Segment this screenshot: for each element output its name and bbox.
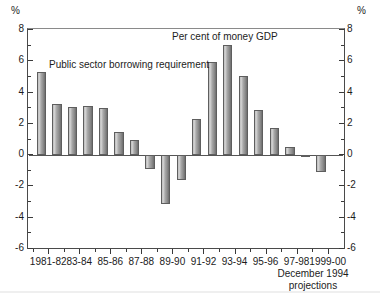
y-minortick-right--1 — [341, 170, 344, 171]
y-label-right--4: -4 — [347, 212, 356, 222]
y-minortick-right--3 — [341, 201, 344, 202]
bar-1985-86 — [114, 132, 123, 155]
y-minortick-left--3 — [28, 201, 31, 202]
y-label-left--6: -6 — [15, 243, 24, 253]
bar-1991-92 — [208, 62, 217, 155]
x-tick-9 — [172, 249, 173, 254]
x-label-95-96: 95-96 — [253, 256, 279, 267]
bar-1983-84 — [83, 106, 92, 155]
x-tick-0 — [33, 249, 34, 252]
bar-1996-97 — [285, 147, 294, 156]
y-label-left--4: -4 — [15, 212, 24, 222]
x-tick-14 — [250, 249, 251, 252]
y-minortick-left-5 — [28, 76, 31, 77]
bar-1989-90 — [177, 155, 186, 180]
y-tick-right--6 — [339, 248, 344, 249]
y-label-right--6: -6 — [347, 243, 356, 253]
y-label-left-0: 0 — [18, 149, 24, 159]
x-label-91-92: 91-92 — [191, 256, 217, 267]
y-label-left-8: 8 — [18, 24, 24, 34]
x-tick-3 — [79, 249, 80, 254]
y-minortick-right--5 — [341, 232, 344, 233]
bar-1997-98 — [301, 155, 310, 157]
projection-note-line1: December 1994 — [258, 268, 368, 280]
y-label-right-8: 8 — [347, 24, 353, 34]
y-axis-unit-left: % — [11, 6, 20, 16]
x-label-83-84: 83-84 — [66, 256, 92, 267]
x-label-1999-00: 1999-00 — [309, 256, 346, 267]
y-tick-left-2 — [28, 123, 33, 124]
y-tick-right--4 — [339, 217, 344, 218]
x-label-87-88: 87-88 — [129, 256, 155, 267]
x-tick-11 — [203, 249, 204, 254]
y-tick-right-8 — [339, 29, 344, 30]
x-tick-7 — [141, 249, 142, 254]
x-tick-2 — [64, 249, 65, 252]
x-tick-4 — [95, 249, 96, 252]
bar-1994-95 — [254, 110, 263, 155]
bar-1998-99 — [316, 155, 325, 172]
bar-1984-85 — [99, 108, 108, 155]
y-tick-right-6 — [339, 60, 344, 61]
x-tick-13 — [235, 249, 236, 254]
x-tick-17 — [297, 249, 298, 254]
x-tick-16 — [281, 249, 282, 252]
y-tick-left-8 — [28, 29, 33, 30]
y-tick-left-4 — [28, 92, 33, 93]
y-tick-right-0 — [339, 154, 344, 155]
y-minortick-left-7 — [28, 45, 31, 46]
projection-note: December 1994 projections — [258, 268, 368, 292]
y-tick-right-4 — [339, 92, 344, 93]
bar-1990-91 — [192, 119, 201, 155]
bar-1995-96 — [270, 128, 279, 155]
y-label-right-2: 2 — [347, 118, 353, 128]
x-tick-8 — [157, 249, 158, 252]
x-label-97-98: 97-98 — [284, 256, 310, 267]
x-tick-6 — [126, 249, 127, 252]
bar-1988-89 — [161, 155, 170, 203]
y-label-right-0: 0 — [347, 149, 353, 159]
x-label-89-90: 89-90 — [160, 256, 186, 267]
y-label-right-4: 4 — [347, 87, 353, 97]
y-minortick-right-3 — [341, 107, 344, 108]
x-tick-19 — [328, 249, 329, 254]
chart-title: Per cent of money GDP — [172, 31, 278, 43]
y-tick-right-2 — [339, 123, 344, 124]
zero-baseline — [29, 155, 343, 156]
y-axis-unit-right: % — [357, 6, 366, 16]
y-minortick-left-1 — [28, 139, 31, 140]
bar-1981-82 — [52, 104, 61, 155]
y-minortick-right-1 — [341, 139, 344, 140]
series-label: Public sector borrowing requirement — [49, 59, 209, 71]
psbr-bar-chart: % % 86420-2-4-6 86420-2-4-6 1981-8283-84… — [0, 0, 380, 293]
y-minortick-right-5 — [341, 76, 344, 77]
x-tick-10 — [188, 249, 189, 252]
y-tick-left--4 — [28, 217, 33, 218]
x-tick-12 — [219, 249, 220, 252]
bar-1980-81 — [37, 72, 46, 155]
y-label-left--2: -2 — [15, 180, 24, 190]
y-tick-right--2 — [339, 185, 344, 186]
x-label-93-94: 93-94 — [222, 256, 248, 267]
y-label-left-6: 6 — [18, 55, 24, 65]
bar-1982-83 — [68, 107, 77, 155]
x-label-1981-82: 1981-82 — [30, 256, 67, 267]
x-tick-5 — [110, 249, 111, 254]
y-label-left-4: 4 — [18, 87, 24, 97]
y-label-left-2: 2 — [18, 118, 24, 128]
y-minortick-right-7 — [341, 45, 344, 46]
x-label-85-86: 85-86 — [98, 256, 124, 267]
y-minortick-left--1 — [28, 170, 31, 171]
x-tick-1 — [48, 249, 49, 254]
bar-1992-93 — [223, 45, 232, 155]
bar-1986-87 — [130, 140, 139, 155]
y-minortick-left-3 — [28, 107, 31, 108]
y-tick-left-0 — [28, 154, 33, 155]
y-minortick-left--5 — [28, 232, 31, 233]
x-tick-18 — [312, 249, 313, 252]
y-label-right--2: -2 — [347, 180, 356, 190]
y-label-right-6: 6 — [347, 55, 353, 65]
bar-1993-94 — [239, 76, 248, 155]
bar-1987-88 — [145, 155, 154, 169]
y-tick-left--2 — [28, 185, 33, 186]
